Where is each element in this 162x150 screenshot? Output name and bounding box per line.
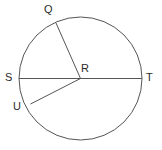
point-label-t: T (146, 72, 153, 83)
point-label-r: R (81, 63, 89, 74)
geometry-figure: Q R S T U (0, 0, 162, 150)
point-label-q: Q (44, 4, 53, 15)
geometry-canvas (0, 0, 162, 150)
radius-segment-RQ (56, 23, 81, 79)
point-label-u: U (13, 101, 21, 112)
point-label-s: S (5, 72, 12, 83)
radius-segment-RU (31, 79, 81, 105)
